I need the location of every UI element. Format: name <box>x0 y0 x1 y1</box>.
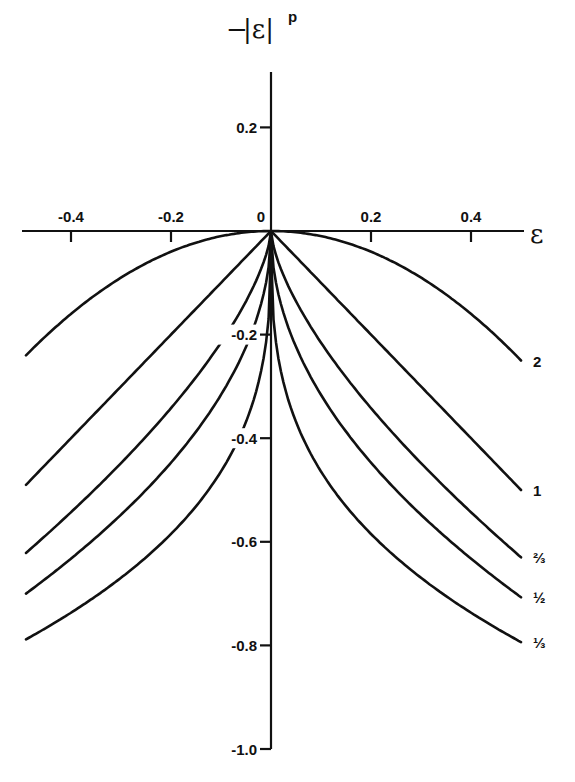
curve-p-2-3 <box>26 232 521 558</box>
power-function-chart: -0.4-0.200.20.4 0.2-0.2-0.4-0.6-0.8-1.0 … <box>0 0 575 782</box>
y-tick-label: -0.4 <box>231 430 258 447</box>
x-axis-title: ε <box>530 219 543 249</box>
x-tick-label: 0 <box>257 208 265 225</box>
x-tick-label: 0.4 <box>461 208 483 225</box>
x-tick-label: 0.2 <box>361 208 382 225</box>
y-tick-label: -1.0 <box>231 741 257 758</box>
y-title-exponent: p <box>288 8 297 25</box>
y-tick-label: 0.2 <box>236 119 257 136</box>
curve-label-p-2: 2 <box>533 353 541 370</box>
y-title-abs: |ε| <box>243 14 274 44</box>
y-ticks: 0.2-0.2-0.4-0.6-0.8-1.0 <box>231 119 271 758</box>
curve-labels: 21⅔½⅓ <box>533 353 546 652</box>
y-tick-label: -0.6 <box>231 533 257 550</box>
curve-label-p-1-3: ⅓ <box>533 634 546 651</box>
x-tick-label: -0.4 <box>58 208 85 225</box>
y-axis-title: − |ε| p <box>226 8 297 44</box>
curve-label-p-1: 1 <box>533 482 541 499</box>
curves-group <box>26 231 521 642</box>
x-tick-label: -0.2 <box>158 208 184 225</box>
curve-label-p-2-3: ⅔ <box>533 549 546 566</box>
y-tick-label: -0.2 <box>231 326 257 343</box>
curve-label-p-1-2: ½ <box>533 589 546 606</box>
y-tick-label: -0.8 <box>231 637 257 654</box>
curve-p-1-3 <box>26 250 521 642</box>
